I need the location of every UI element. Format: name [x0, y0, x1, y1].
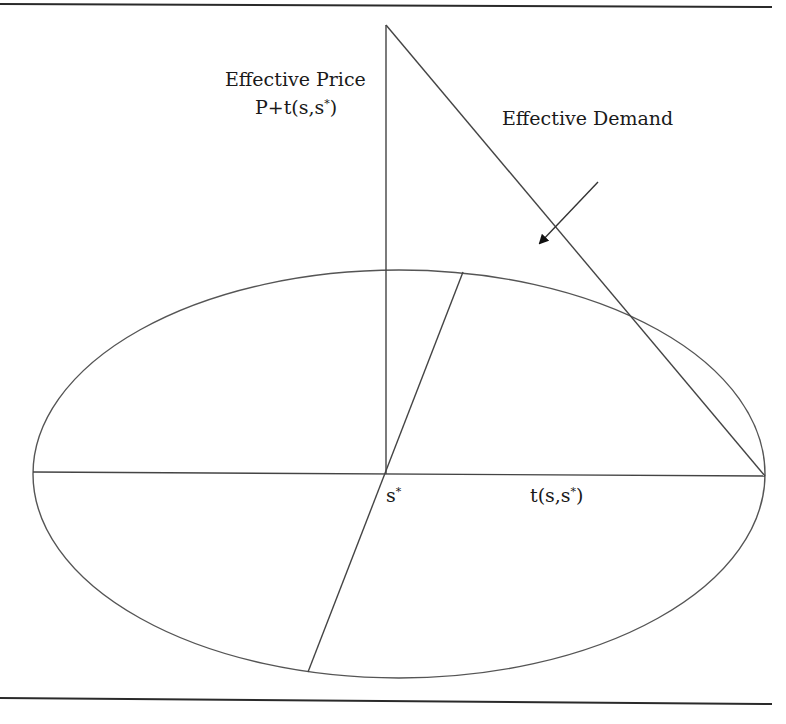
x-axis-label-text: t(s,s: [530, 484, 571, 506]
origin-label-star: *: [396, 485, 402, 498]
top-rule: [0, 4, 772, 7]
figure: Effective Price P+t(s,s*) Effective Dema…: [0, 0, 786, 724]
y-axis-label-line1: Effective Price: [225, 70, 366, 89]
horizontal-axis: [33, 472, 765, 476]
origin-label-text: s: [386, 484, 396, 506]
x-axis-label-close: ): [576, 484, 583, 506]
y-axis-label-close: ): [330, 96, 337, 118]
y-axis-label-line2: P+t(s,s*): [255, 98, 337, 117]
origin-label: s*: [386, 486, 401, 505]
y-axis-label-text: P+t(s,s: [255, 96, 324, 118]
effective-demand-label: Effective Demand: [502, 109, 673, 128]
x-axis-label: t(s,s*): [530, 486, 584, 505]
effective-demand-line: [386, 25, 765, 476]
demand-arrow-icon: [540, 182, 598, 243]
bottom-rule: [0, 698, 772, 704]
